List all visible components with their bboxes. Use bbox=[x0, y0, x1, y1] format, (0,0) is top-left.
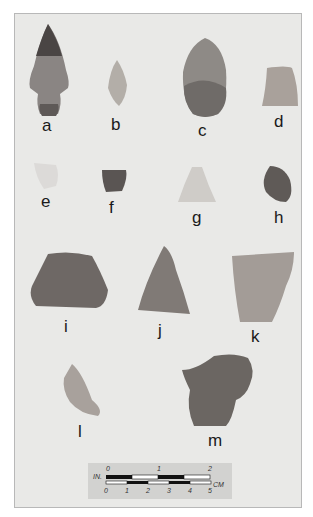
label-g: g bbox=[192, 209, 201, 226]
label-k: k bbox=[251, 328, 260, 345]
label-c: c bbox=[198, 122, 207, 139]
artifact-f bbox=[102, 170, 127, 192]
artifact-d bbox=[262, 67, 298, 107]
artifact-b bbox=[108, 60, 127, 106]
scale-cm-unit: CM bbox=[213, 481, 224, 488]
artifact-m bbox=[182, 354, 253, 426]
artifact-j bbox=[138, 246, 190, 314]
label-d: d bbox=[274, 113, 283, 130]
label-b: b bbox=[111, 116, 120, 133]
scale-cm-tick-3: 3 bbox=[167, 487, 171, 494]
artifact-h bbox=[264, 166, 292, 202]
artifact-g bbox=[178, 167, 216, 202]
artifact-e bbox=[34, 163, 58, 189]
label-i: i bbox=[64, 318, 68, 335]
label-e: e bbox=[41, 193, 50, 210]
artifact-a bbox=[30, 24, 69, 116]
scale-cm-tick-1: 1 bbox=[125, 487, 129, 494]
scale-inch-tick-0: 0 bbox=[106, 465, 110, 472]
scale-bar: IN. 0 1 2 CM 0 1 2 3 4 5 bbox=[88, 463, 232, 499]
scale-cm-tick-0: 0 bbox=[104, 487, 108, 494]
scale-cm-tick-5: 5 bbox=[208, 487, 212, 494]
scale-inch-tick-2: 2 bbox=[208, 465, 212, 472]
label-a: a bbox=[42, 117, 51, 134]
artifact-i bbox=[31, 252, 108, 308]
scale-inch-tick-1: 1 bbox=[157, 465, 161, 472]
label-j: j bbox=[158, 322, 162, 339]
label-f: f bbox=[109, 199, 114, 216]
label-m: m bbox=[208, 432, 222, 449]
artifacts-layer bbox=[0, 0, 313, 517]
label-l: l bbox=[78, 423, 82, 440]
scale-cm-tick-4: 4 bbox=[188, 487, 192, 494]
label-h: h bbox=[274, 209, 283, 226]
artifact-c bbox=[183, 38, 226, 117]
artifact-l bbox=[64, 364, 100, 416]
artifact-k bbox=[232, 252, 294, 322]
scale-cm-tick-2: 2 bbox=[146, 487, 150, 494]
scale-inch-unit: IN. bbox=[93, 473, 102, 480]
